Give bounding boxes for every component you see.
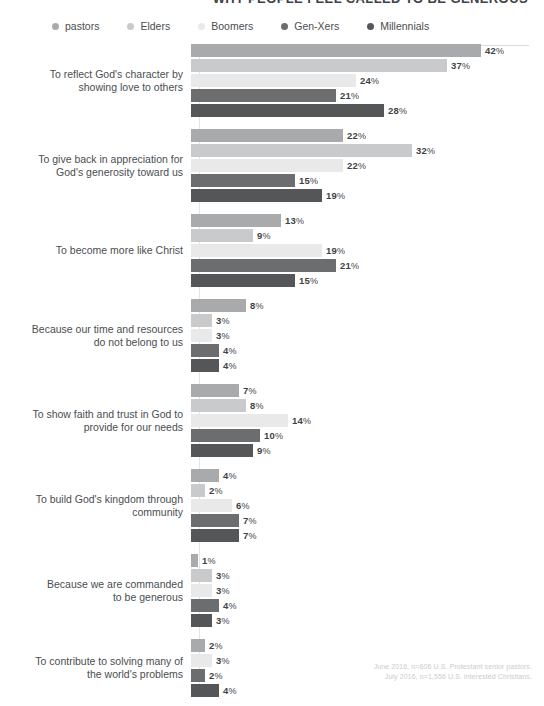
bar-value-label: 7% (243, 385, 257, 396)
bar-value-label: 19% (326, 190, 345, 201)
bar-elders[interactable] (191, 59, 447, 72)
bar-millennials[interactable] (191, 274, 295, 287)
bar-row[interactable]: 8% (191, 399, 544, 412)
bar-row[interactable]: 14% (191, 414, 544, 427)
bar-row[interactable]: 7% (191, 384, 544, 397)
bar-gen-xers[interactable] (191, 259, 336, 272)
bar-gen-xers[interactable] (191, 669, 205, 682)
bar-elders[interactable] (191, 229, 253, 242)
bar-row[interactable]: 10% (191, 429, 544, 442)
legend-item-gen-xers[interactable]: Gen-Xers (281, 20, 339, 32)
bar-row[interactable]: 4% (191, 344, 544, 357)
bar-row[interactable]: 3% (191, 614, 544, 627)
bar-boomers[interactable] (191, 329, 212, 342)
bar-boomers[interactable] (191, 159, 343, 172)
bar-row[interactable]: 32% (191, 144, 544, 157)
bar-millennials[interactable] (191, 359, 219, 372)
bar-millennials[interactable] (191, 189, 322, 202)
bar-millennials[interactable] (191, 104, 384, 117)
bar-gen-xers[interactable] (191, 89, 336, 102)
bar-row[interactable]: 22% (191, 129, 544, 142)
bar-row[interactable]: 28% (191, 104, 544, 117)
bar-gen-xers[interactable] (191, 344, 219, 357)
bar-row[interactable]: 42% (191, 44, 544, 57)
bar-pastors[interactable] (191, 554, 198, 567)
bar-elders[interactable] (191, 399, 246, 412)
bar-row[interactable]: 13% (191, 214, 544, 227)
bar-group-label-line: To give back in appreciation for (0, 153, 183, 166)
bar-boomers[interactable] (191, 584, 212, 597)
bar-boomers[interactable] (191, 499, 232, 512)
bar-value-label: 15% (299, 175, 318, 186)
percent-sign: % (221, 571, 229, 581)
bar-row[interactable]: 4% (191, 684, 544, 697)
percent-sign: % (207, 556, 215, 566)
bar-row[interactable]: 1% (191, 554, 544, 567)
bar-row[interactable]: 15% (191, 274, 544, 287)
bar-row[interactable]: 19% (191, 189, 544, 202)
bar-group-label: To reflect God's character byshowing lov… (0, 68, 191, 94)
bar-pastors[interactable] (191, 214, 281, 227)
bar-boomers[interactable] (191, 654, 212, 667)
bar-elders[interactable] (191, 484, 205, 497)
bar-millennials[interactable] (191, 614, 212, 627)
bar-value-label: 21% (340, 260, 359, 271)
bar-row[interactable]: 22% (191, 159, 544, 172)
bar-millennials[interactable] (191, 444, 253, 457)
legend-item-millennials[interactable]: Millennials (367, 20, 429, 32)
bar-row[interactable]: 21% (191, 259, 544, 272)
bar-group-label-line: to be generous (0, 591, 183, 604)
bar-boomers[interactable] (191, 414, 288, 427)
bar-row[interactable]: 4% (191, 469, 544, 482)
bar-elders[interactable] (191, 314, 212, 327)
bar-row[interactable]: 9% (191, 444, 544, 457)
bar-value-label: 2% (209, 640, 223, 651)
bar-row[interactable]: 3% (191, 329, 544, 342)
bar-row[interactable]: 3% (191, 584, 544, 597)
bar-row[interactable]: 9% (191, 229, 544, 242)
bar-row[interactable]: 6% (191, 499, 544, 512)
bar-pastors[interactable] (191, 639, 205, 652)
bar-row[interactable]: 37% (191, 59, 544, 72)
bar-value-number: 32 (416, 145, 427, 156)
bar-gen-xers[interactable] (191, 429, 260, 442)
bar-row[interactable]: 3% (191, 314, 544, 327)
bar-row[interactable]: 2% (191, 639, 544, 652)
bar-row[interactable]: 7% (191, 514, 544, 527)
page-title: WHY PEOPLE FEEL CALLED TO BE GENEROUS (0, 0, 544, 6)
bar-row[interactable]: 7% (191, 529, 544, 542)
percent-sign: % (214, 671, 222, 681)
legend-swatch-icon (367, 23, 374, 30)
bar-pastors[interactable] (191, 299, 246, 312)
bar-row[interactable]: 15% (191, 174, 544, 187)
bar-pastors[interactable] (191, 469, 219, 482)
bar-gen-xers[interactable] (191, 174, 295, 187)
bar-row[interactable]: 21% (191, 89, 544, 102)
bar-boomers[interactable] (191, 244, 322, 257)
bar-row[interactable]: 4% (191, 599, 544, 612)
legend-item-pastors[interactable]: pastors (52, 20, 99, 32)
bar-pastors[interactable] (191, 129, 343, 142)
percent-sign: % (221, 656, 229, 666)
bar-group-label-line: provide for our needs (0, 421, 183, 434)
legend-item-boomers[interactable]: Boomers (198, 20, 253, 32)
bar-elders[interactable] (191, 569, 212, 582)
bar-row[interactable]: 2% (191, 484, 544, 497)
bar-group-bars: 42%37%24%21%28% (191, 44, 544, 117)
bar-row[interactable]: 3% (191, 569, 544, 582)
bar-gen-xers[interactable] (191, 599, 219, 612)
bar-group: To show faith and trust in God toprovide… (0, 384, 544, 457)
bar-row[interactable]: 24% (191, 74, 544, 87)
bar-elders[interactable] (191, 144, 412, 157)
bar-pastors[interactable] (191, 44, 481, 57)
bar-row[interactable]: 19% (191, 244, 544, 257)
bar-group-label: To give back in appreciation forGod's ge… (0, 153, 191, 179)
bar-pastors[interactable] (191, 384, 239, 397)
bar-millennials[interactable] (191, 529, 239, 542)
bar-boomers[interactable] (191, 74, 356, 87)
bar-row[interactable]: 4% (191, 359, 544, 372)
bar-gen-xers[interactable] (191, 514, 239, 527)
legend-item-elders[interactable]: Elders (127, 20, 170, 32)
bar-row[interactable]: 8% (191, 299, 544, 312)
bar-millennials[interactable] (191, 684, 219, 697)
